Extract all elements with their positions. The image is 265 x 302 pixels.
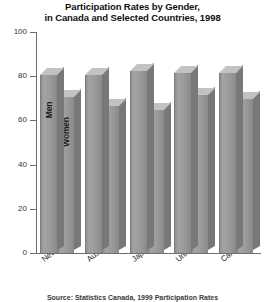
bar-front-face — [85, 75, 102, 254]
y-axis-tick-label: 40 — [0, 161, 27, 169]
bar-side-face — [119, 98, 126, 250]
bar-side-face — [164, 102, 171, 250]
bar-men-canada — [219, 73, 236, 254]
bar-group — [219, 33, 253, 254]
bar-side-face — [208, 87, 215, 250]
bar-side-face — [57, 67, 64, 250]
series-label-men: Men — [44, 102, 54, 118]
bar-group — [85, 33, 119, 254]
y-axis-tick — [30, 209, 37, 210]
bar-group — [174, 33, 208, 254]
chart-title-line-1: Participation Rates by Gender, — [0, 1, 265, 12]
bar-side-face — [102, 67, 109, 250]
y-axis-tick-label: 100 — [0, 28, 27, 36]
y-axis-tick-label: 60 — [0, 116, 27, 124]
bar-side-face — [147, 63, 154, 250]
y-axis-tick-label: 80 — [0, 72, 27, 80]
y-axis-tick — [30, 165, 37, 166]
bar-men-japan — [130, 71, 147, 254]
y-axis-tick-label: 20 — [0, 205, 27, 213]
bar-front-face — [174, 73, 191, 254]
bar-side-face — [191, 65, 198, 250]
bar-side-face — [74, 89, 81, 250]
y-axis-tick — [30, 253, 37, 254]
bar-side-face — [253, 91, 260, 250]
bar-front-face — [130, 71, 147, 254]
chart-title: Participation Rates by Gender, in Canada… — [0, 1, 265, 23]
bar-front-face — [219, 73, 236, 254]
bar-group: MenWomen — [40, 33, 74, 254]
bars-layer: MenWomen — [37, 32, 261, 254]
bar-men-united-states — [174, 73, 191, 254]
y-axis-tick — [30, 120, 37, 121]
source-note: Source: Statistics Canada, 1999 Particip… — [0, 294, 265, 302]
y-axis-tick-label: 0 — [0, 249, 27, 257]
chart-title-line-2: in Canada and Selected Countries, 1998 — [0, 12, 265, 23]
bar-men-australia — [85, 75, 102, 254]
bar-side-face — [236, 65, 243, 250]
y-axis-tick — [30, 76, 37, 77]
y-axis-tick — [30, 32, 37, 33]
bar-men-new-zealand: Men — [40, 75, 57, 254]
bar-group — [130, 33, 164, 254]
